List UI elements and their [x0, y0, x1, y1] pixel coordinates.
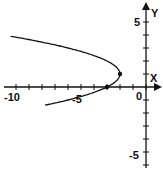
- x-tick-label-neg5: -5: [72, 93, 82, 105]
- vertex-point: [118, 72, 122, 76]
- x-tick-label-0: 0: [136, 90, 142, 102]
- x-tick-label-neg10: -10: [4, 91, 20, 103]
- x-axis-label: X: [150, 72, 158, 84]
- chart-svg: Y X -10 -5 0 5 -5: [0, 0, 163, 171]
- y-tick-label-5: 5: [134, 16, 140, 28]
- y-axis-arrow-icon: [142, 2, 150, 10]
- y-axis-label: Y: [151, 7, 159, 19]
- x-axis-arrow-icon: [154, 83, 162, 91]
- parabola-curve: [11, 36, 120, 105]
- parabola-chart: Y X -10 -5 0 5 -5: [0, 0, 163, 171]
- y-tick-label-neg5: -5: [129, 149, 139, 161]
- x-intercept-point: [105, 85, 109, 89]
